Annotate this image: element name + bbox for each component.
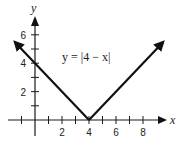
y-tick-label: 4 — [20, 58, 26, 69]
y-axis-tick-labels: 246 — [20, 30, 26, 98]
y-tick-label: 6 — [20, 30, 26, 41]
x-axis-arrow-icon — [158, 116, 167, 124]
x-axis-tick-labels: 2468 — [59, 127, 146, 138]
x-tick-label: 2 — [59, 127, 65, 138]
x-tick-label: 6 — [113, 127, 119, 138]
absolute-value-graph: 2468 246 x y y = |4 − x| — [0, 0, 181, 147]
equation-label: y = |4 − x| — [62, 50, 110, 64]
y-tick-label: 2 — [20, 87, 26, 98]
y-axis-arrow-icon — [31, 16, 39, 26]
y-axis-label: y — [30, 1, 37, 15]
x-axis-label: x — [169, 113, 176, 127]
x-tick-label: 8 — [140, 127, 146, 138]
x-tick-label: 4 — [86, 127, 92, 138]
